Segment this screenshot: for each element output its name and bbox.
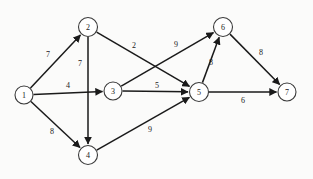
edge-weight-label-1-3: 4 xyxy=(66,81,70,90)
node-label-6: 6 xyxy=(221,23,225,32)
edge-weight-label-4-5: 9 xyxy=(148,125,152,134)
node-label-1: 1 xyxy=(22,91,26,100)
edge-weight-label-3-5: 5 xyxy=(155,81,159,90)
edge-4-to-5 xyxy=(97,97,190,150)
edge-1-to-3 xyxy=(33,91,102,94)
node-label-2: 2 xyxy=(86,23,90,32)
edge-weight-label-1-2: 7 xyxy=(46,50,50,59)
edge-weight-label-2-5: 2 xyxy=(132,41,136,50)
edge-1-to-2 xyxy=(31,35,81,88)
edge-6-to-7 xyxy=(230,34,280,84)
edges-group xyxy=(31,32,280,150)
edge-weight-label-5-7: 6 xyxy=(241,96,245,105)
graph-diagram-canvas: 1234567 74872599868 xyxy=(0,0,313,179)
node-label-5: 5 xyxy=(197,88,201,97)
directed-weighted-graph: 1234567 74872599868 xyxy=(0,0,313,179)
node-label-3: 3 xyxy=(111,87,115,96)
edge-1-to-4 xyxy=(31,101,80,147)
edge-weight-label-6-7: 8 xyxy=(259,48,263,57)
node-label-4: 4 xyxy=(86,151,90,160)
node-label-7: 7 xyxy=(285,88,289,97)
edge-weight-label-3-6: 9 xyxy=(174,40,178,49)
edge-weight-label-5-6: 8 xyxy=(209,58,213,67)
edge-3-to-5 xyxy=(122,91,188,92)
edge-labels-group: 74872599868 xyxy=(46,40,263,136)
edge-weight-label-1-4: 8 xyxy=(50,127,54,136)
edge-weight-label-2-4: 7 xyxy=(78,59,82,68)
